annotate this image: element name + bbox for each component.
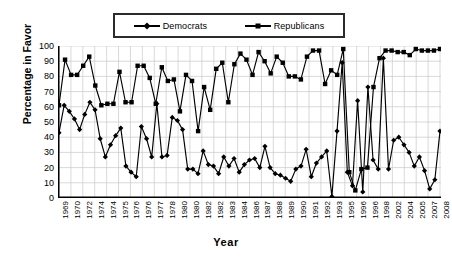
diamond-marker-icon — [134, 25, 160, 27]
x-tick-label: 1969 — [62, 201, 70, 219]
y-tick-label: 50 — [28, 118, 54, 127]
x-tick-label: 1987 — [264, 201, 272, 219]
x-tick-label: 1974 — [110, 201, 118, 219]
x-tick-label: 1989 — [288, 201, 296, 219]
y-tick-label: 100 — [28, 42, 54, 51]
x-tick-label: 2002 — [395, 201, 403, 219]
plot-area — [58, 46, 441, 198]
y-tick-label: 60 — [28, 102, 54, 111]
x-tick-label: 1990 — [300, 201, 308, 219]
x-tick-label: 1980 — [193, 201, 201, 219]
x-tick-label: 1996 — [372, 201, 380, 219]
x-tick-label: 1993 — [336, 201, 344, 219]
x-tick-label: 1986 — [253, 201, 261, 219]
x-tick-label: 1998 — [383, 201, 391, 219]
chart-container: Democrats Republicans Percentage in Favo… — [0, 0, 452, 260]
x-tick-label: 1996 — [360, 201, 368, 219]
x-tick-label: 2008 — [443, 201, 451, 219]
x-tick-label: 1978 — [169, 201, 177, 219]
square-marker-icon — [245, 25, 271, 27]
x-tick-label: 2005 — [419, 201, 427, 219]
y-tick-label: 40 — [28, 133, 54, 142]
x-tick-label: 1972 — [86, 201, 94, 219]
y-tick-label: 30 — [28, 148, 54, 157]
y-tick-label: 10 — [28, 178, 54, 187]
x-axis-tick-labels: 1969197019721974197419751976197619771978… — [58, 201, 441, 235]
x-tick-label: 1977 — [157, 201, 165, 219]
x-tick-label: 1988 — [276, 201, 284, 219]
y-tick-label: 0 — [28, 194, 54, 203]
x-tick-label: 1974 — [98, 201, 106, 219]
x-tick-label: 1991 — [312, 201, 320, 219]
y-tick-label: 70 — [28, 87, 54, 96]
x-tick-label: 1995 — [348, 201, 356, 219]
chart-svg — [58, 46, 441, 198]
x-tick-label: 1984 — [241, 201, 249, 219]
x-tick-label: 1975 — [122, 201, 130, 219]
x-tick-label: 1992 — [324, 201, 332, 219]
x-axis-title: Year — [0, 236, 452, 248]
x-tick-label: 1976 — [145, 201, 153, 219]
y-tick-label: 90 — [28, 57, 54, 66]
legend-label-republicans: Republicans — [274, 21, 325, 31]
x-tick-label: 1976 — [133, 201, 141, 219]
y-tick-label: 80 — [28, 72, 54, 81]
legend-item-democrats: Democrats — [134, 21, 207, 31]
y-tick-label: 20 — [28, 163, 54, 172]
legend-item-republicans: Republicans — [245, 21, 325, 31]
x-tick-label: 1982 — [205, 201, 213, 219]
chart-legend: Democrats Republicans — [113, 13, 345, 38]
x-tick-label: 2004 — [407, 201, 415, 219]
x-tick-label: 1970 — [74, 201, 82, 219]
x-tick-label: 1983 — [229, 201, 237, 219]
x-tick-label: 1980 — [181, 201, 189, 219]
x-tick-label: 1982 — [217, 201, 225, 219]
x-tick-label: 2007 — [431, 201, 439, 219]
y-axis-tick-labels: 0102030405060708090100 — [26, 46, 54, 198]
legend-label-democrats: Democrats — [163, 21, 207, 31]
